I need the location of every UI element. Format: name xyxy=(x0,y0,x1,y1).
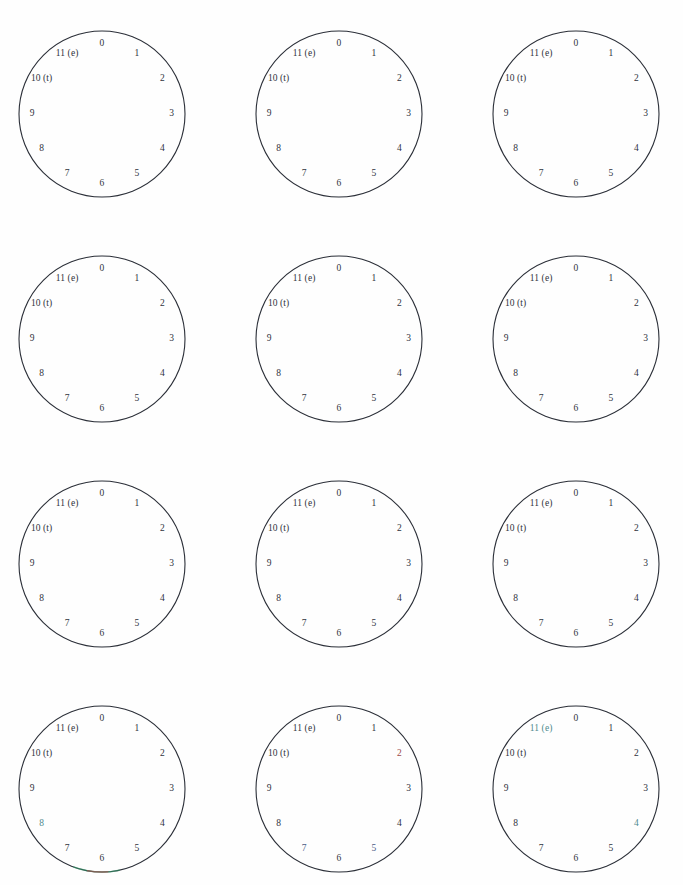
dial-label-8: 8 xyxy=(276,144,281,154)
dial-label-4: 4 xyxy=(634,369,639,379)
dial-label-1: 1 xyxy=(608,724,613,734)
clock-dial-3-1[interactable]: 012345678910 (t)11 (e) xyxy=(18,480,186,648)
dial-label-6: 6 xyxy=(337,854,342,864)
dial-label-1: 1 xyxy=(608,499,613,509)
dial-outline xyxy=(256,481,422,647)
clock-dial-1-3[interactable]: 012345678910 (t)11 (e) xyxy=(492,30,660,198)
dial-outline xyxy=(493,706,659,872)
clock-dial-4-2[interactable]: 012345678910 (t)11 (e) xyxy=(255,705,423,873)
dial-label-6: 6 xyxy=(100,629,105,639)
dial-label-10: 10 (t) xyxy=(31,74,52,84)
dial-outline xyxy=(256,31,422,197)
dial-label-11: 11 (e) xyxy=(56,49,79,59)
dial-label-4: 4 xyxy=(397,594,402,604)
clock-dial-2-2[interactable]: 012345678910 (t)11 (e) xyxy=(255,255,423,423)
dial-label-4: 4 xyxy=(634,144,639,154)
dial-label-0: 0 xyxy=(574,40,579,50)
clock-dial-3-3[interactable]: 012345678910 (t)11 (e) xyxy=(492,480,660,648)
clock-dial-4-3[interactable]: 012345678910 (t)11 (e) xyxy=(492,705,660,873)
clock-dial-2-1[interactable]: 012345678910 (t)11 (e) xyxy=(18,255,186,423)
dial-label-5: 5 xyxy=(608,845,613,855)
dial-circle xyxy=(18,255,186,423)
dial-label-8: 8 xyxy=(513,594,518,604)
dial-label-3: 3 xyxy=(406,334,411,344)
dial-label-8: 8 xyxy=(513,144,518,154)
dial-label-7: 7 xyxy=(65,395,70,405)
dial-label-4: 4 xyxy=(160,819,165,829)
clock-dial-1-1[interactable]: 012345678910 (t)11 (e) xyxy=(18,30,186,198)
dial-label-5: 5 xyxy=(608,620,613,630)
dial-label-10: 10 (t) xyxy=(268,74,289,84)
dial-label-2: 2 xyxy=(160,524,165,534)
dial-label-3: 3 xyxy=(643,784,648,794)
dial-outline xyxy=(19,706,185,872)
dial-label-11: 11 (e) xyxy=(293,274,316,284)
clock-dial-3-2[interactable]: 012345678910 (t)11 (e) xyxy=(255,480,423,648)
dial-outline xyxy=(19,481,185,647)
dial-label-3: 3 xyxy=(406,109,411,119)
dial-label-11: 11 (e) xyxy=(293,724,316,734)
dial-label-5: 5 xyxy=(134,170,139,180)
dial-label-0: 0 xyxy=(574,715,579,725)
dial-label-1: 1 xyxy=(134,274,139,284)
dial-label-11: 11 (e) xyxy=(530,49,553,59)
dial-label-6: 6 xyxy=(337,404,342,414)
dial-label-1: 1 xyxy=(608,274,613,284)
dial-circle xyxy=(18,705,186,873)
dial-label-6: 6 xyxy=(574,404,579,414)
clock-dial-1-2[interactable]: 012345678910 (t)11 (e) xyxy=(255,30,423,198)
dial-label-9: 9 xyxy=(30,784,35,794)
clock-dial-grid: 012345678910 (t)11 (e)012345678910 (t)11… xyxy=(0,0,683,885)
dial-label-3: 3 xyxy=(406,559,411,569)
dial-label-11: 11 (e) xyxy=(530,724,553,734)
dial-label-6: 6 xyxy=(574,179,579,189)
dial-label-9: 9 xyxy=(504,784,509,794)
dial-label-10: 10 (t) xyxy=(268,524,289,534)
dial-label-3: 3 xyxy=(169,784,174,794)
dial-label-2: 2 xyxy=(160,749,165,759)
dial-label-0: 0 xyxy=(337,40,342,50)
dial-label-0: 0 xyxy=(337,715,342,725)
dial-label-0: 0 xyxy=(574,490,579,500)
dial-label-9: 9 xyxy=(504,334,509,344)
dial-label-4: 4 xyxy=(160,369,165,379)
dial-outline xyxy=(493,481,659,647)
dial-label-4: 4 xyxy=(160,144,165,154)
dial-label-2: 2 xyxy=(634,524,639,534)
clock-dial-2-3[interactable]: 012345678910 (t)11 (e) xyxy=(492,255,660,423)
dial-label-7: 7 xyxy=(65,845,70,855)
dial-label-0: 0 xyxy=(100,490,105,500)
dial-label-11: 11 (e) xyxy=(530,274,553,284)
dial-label-1: 1 xyxy=(134,724,139,734)
dial-label-4: 4 xyxy=(397,144,402,154)
dial-label-8: 8 xyxy=(276,369,281,379)
dial-label-5: 5 xyxy=(608,395,613,405)
dial-label-9: 9 xyxy=(504,109,509,119)
dial-label-6: 6 xyxy=(574,854,579,864)
dial-label-6: 6 xyxy=(337,629,342,639)
dial-label-1: 1 xyxy=(371,49,376,59)
dial-label-9: 9 xyxy=(30,109,35,119)
dial-label-10: 10 (t) xyxy=(505,74,526,84)
dial-circle xyxy=(18,480,186,648)
dial-label-1: 1 xyxy=(371,274,376,284)
clock-dial-4-1[interactable]: 012345678910 (t)11 (e) xyxy=(18,705,186,873)
dial-label-10: 10 (t) xyxy=(505,299,526,309)
dial-label-11: 11 (e) xyxy=(56,499,79,509)
dial-label-9: 9 xyxy=(267,784,272,794)
dial-label-2: 2 xyxy=(160,74,165,84)
dial-label-0: 0 xyxy=(100,265,105,275)
dial-label-0: 0 xyxy=(100,40,105,50)
dial-label-8: 8 xyxy=(39,819,44,829)
dial-label-7: 7 xyxy=(302,170,307,180)
dial-label-7: 7 xyxy=(65,620,70,630)
dial-label-8: 8 xyxy=(276,819,281,829)
dial-outline xyxy=(19,31,185,197)
dial-label-8: 8 xyxy=(513,369,518,379)
dial-label-7: 7 xyxy=(539,845,544,855)
dial-circle xyxy=(492,480,660,648)
dial-label-11: 11 (e) xyxy=(56,724,79,734)
dial-outline xyxy=(256,256,422,422)
dial-label-4: 4 xyxy=(160,594,165,604)
dial-label-5: 5 xyxy=(134,845,139,855)
